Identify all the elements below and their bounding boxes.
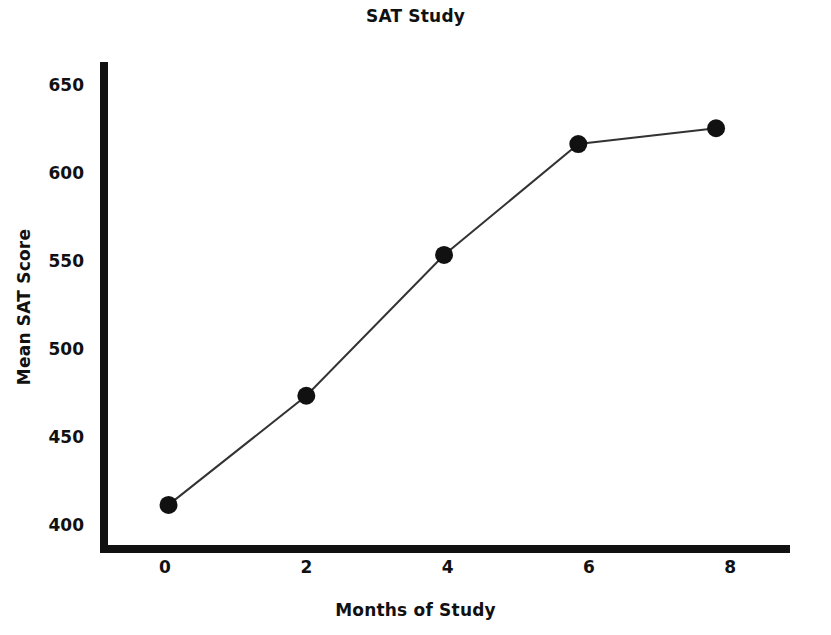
data-point	[569, 135, 587, 153]
data-point	[160, 496, 178, 514]
data-markers	[160, 119, 726, 514]
data-point	[707, 119, 725, 137]
data-line	[169, 128, 717, 505]
chart-figure: SAT Study Mean SAT Score Months of Study…	[0, 0, 831, 635]
data-point	[435, 246, 453, 264]
plot-area	[0, 0, 831, 635]
data-point	[297, 387, 315, 405]
